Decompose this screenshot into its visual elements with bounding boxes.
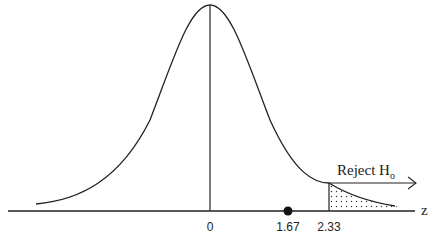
tick-label-test-statistic: 1.67: [276, 220, 300, 234]
tick-label-critical-value: 2.33: [317, 220, 341, 234]
test-statistic-dot: [284, 207, 293, 216]
rejection-region: [329, 183, 410, 211]
axis-variable-label: z: [421, 202, 428, 218]
reject-label: Reject Ho: [337, 162, 395, 181]
reject-label-subscript: o: [390, 170, 395, 181]
reject-label-text: Reject H: [337, 162, 390, 178]
normal-curve-diagram: 0 1.67 2.33 z Reject Ho: [0, 0, 436, 244]
tick-label-0: 0: [207, 220, 214, 234]
